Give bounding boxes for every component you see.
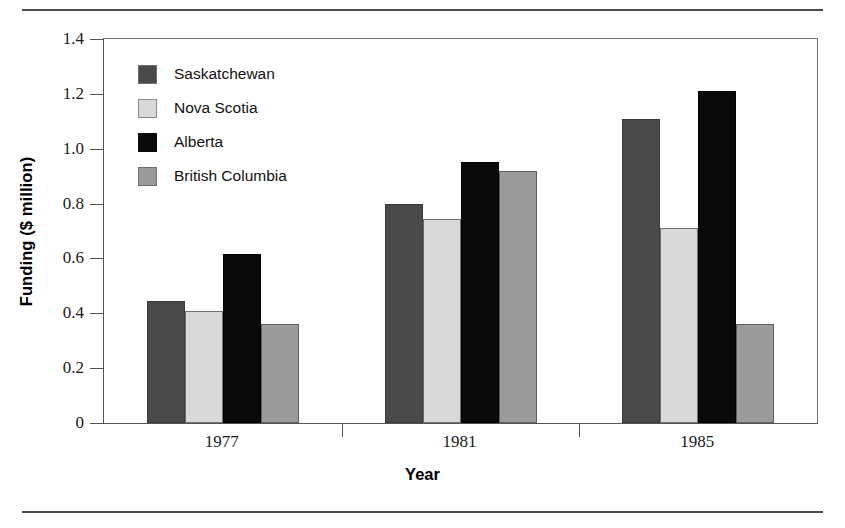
bar xyxy=(622,119,660,423)
legend-item: Alberta xyxy=(138,125,287,159)
y-axis-tick-label: 1.0 xyxy=(63,139,84,159)
page-rule-bottom xyxy=(22,511,823,513)
bar xyxy=(185,311,223,423)
y-axis-tick-label: 1.2 xyxy=(63,84,84,104)
legend-item: Saskatchewan xyxy=(138,57,287,91)
bar xyxy=(499,171,537,423)
page-rule-top xyxy=(22,9,823,11)
bar xyxy=(261,324,299,423)
plot-area: 00.20.40.60.81.01.21.4 SaskatchewanNova … xyxy=(103,38,818,424)
legend-item: British Columbia xyxy=(138,159,287,193)
bar xyxy=(698,91,736,423)
bar xyxy=(461,162,499,423)
bar xyxy=(223,254,261,423)
y-axis-tick-label: 0.2 xyxy=(63,358,84,378)
y-axis-tick-label: 1.4 xyxy=(63,29,84,49)
legend-item-label: British Columbia xyxy=(174,167,287,185)
swatch-black-icon xyxy=(138,133,157,152)
y-axis-tick-label: 0.4 xyxy=(63,303,84,323)
y-axis-tick xyxy=(90,258,104,259)
x-axis-group-separator xyxy=(342,423,343,437)
bar xyxy=(736,324,774,423)
x-axis-group-separator xyxy=(579,423,580,437)
swatch-light-gray-icon xyxy=(138,99,157,118)
y-axis-tick xyxy=(90,39,104,40)
bar xyxy=(660,228,698,423)
x-axis-tick-label: 1985 xyxy=(680,432,714,452)
bar xyxy=(423,219,461,423)
bar xyxy=(147,301,185,423)
y-axis-tick xyxy=(90,149,104,150)
chart-legend: SaskatchewanNova ScotiaAlbertaBritish Co… xyxy=(138,57,287,193)
x-axis-tick-label: 1977 xyxy=(205,432,239,452)
legend-item-label: Alberta xyxy=(174,133,223,151)
legend-item-label: Saskatchewan xyxy=(174,65,275,83)
x-axis-title: Year xyxy=(0,465,845,484)
swatch-dark-gray-icon xyxy=(138,65,157,84)
y-axis-tick xyxy=(90,313,104,314)
y-axis-tick xyxy=(90,204,104,205)
y-axis-tick xyxy=(90,368,104,369)
y-axis-tick xyxy=(90,94,104,95)
y-axis-title: Funding ($ million) xyxy=(14,38,40,424)
y-axis-tick-label: 0.8 xyxy=(63,194,84,214)
legend-item: Nova Scotia xyxy=(138,91,287,125)
y-axis-tick-label: 0 xyxy=(76,413,85,433)
bar xyxy=(385,204,423,423)
swatch-mid-gray-icon xyxy=(138,167,157,186)
y-axis-tick xyxy=(90,423,104,424)
y-axis-tick-label: 0.6 xyxy=(63,248,84,268)
figure-bar-chart: Funding ($ million) 00.20.40.60.81.01.21… xyxy=(0,0,845,528)
legend-item-label: Nova Scotia xyxy=(174,99,258,117)
x-axis-tick-label: 1981 xyxy=(443,432,477,452)
y-axis-title-label: Funding ($ million) xyxy=(18,156,37,305)
